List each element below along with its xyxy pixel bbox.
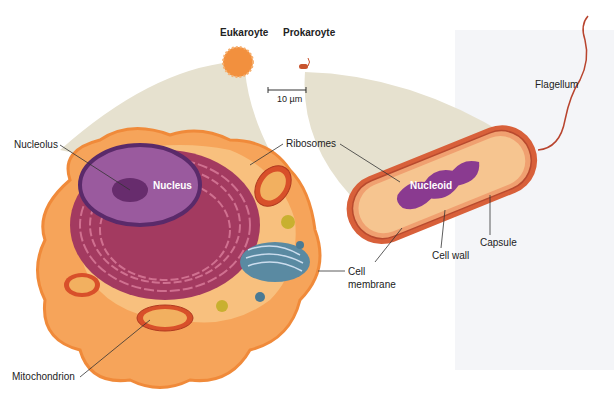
label-mitochondrion: Mitochondrion xyxy=(12,371,75,383)
label-ribosomes: Ribosomes xyxy=(286,138,336,150)
title-prokaryote: Prokaroyte xyxy=(283,27,335,39)
label-nucleus: Nucleus xyxy=(153,180,192,192)
title-eukaryote: Eukaroyte xyxy=(220,27,268,39)
label-cell-membrane-1: Cell xyxy=(348,266,365,278)
label-cell-membrane-2: membrane xyxy=(348,279,396,291)
small-prokaryote-icon xyxy=(299,64,308,69)
scale-bar-label: 10 µm xyxy=(277,93,302,105)
small-eukaryote-icon xyxy=(223,47,253,77)
label-cell-wall: Cell wall xyxy=(432,250,469,262)
cell-illustration xyxy=(0,0,614,400)
label-capsule: Capsule xyxy=(480,237,517,249)
label-nucleolus: Nucleolus xyxy=(14,139,58,151)
label-nucleoid: Nucleoid xyxy=(410,180,452,192)
label-flagellum: Flagellum xyxy=(535,79,578,91)
